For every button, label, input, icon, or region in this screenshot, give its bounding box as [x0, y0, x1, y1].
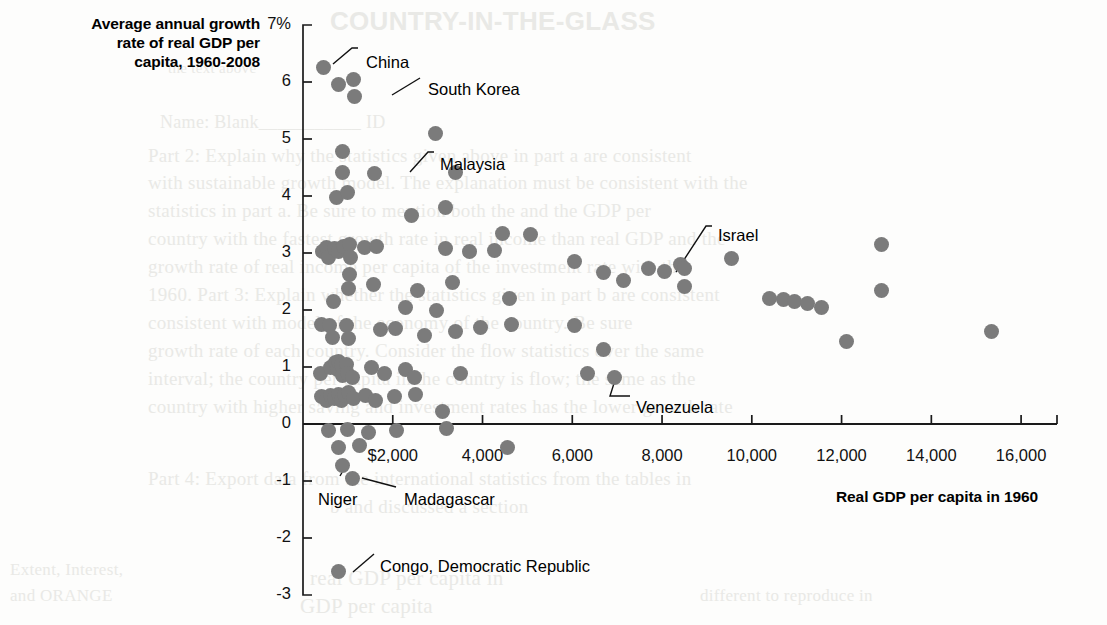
annotation-leader-line	[392, 78, 420, 95]
annotation-leader-line	[362, 478, 396, 487]
data-point	[325, 330, 340, 345]
data-point	[495, 226, 510, 241]
y-tick-label: -2	[225, 527, 291, 546]
data-point	[657, 264, 672, 279]
chart-page: COUNTRY-IN-THE-GLASSthe text aboveName: …	[0, 0, 1107, 625]
data-point	[445, 275, 460, 290]
data-point	[438, 200, 453, 215]
data-point	[677, 261, 692, 276]
y-tick-label: 5	[225, 128, 291, 147]
data-point	[596, 342, 611, 357]
y-tick-label: -1	[225, 470, 291, 489]
data-point	[607, 370, 622, 385]
data-point	[326, 294, 341, 309]
data-point-labeled	[596, 265, 611, 280]
y-tick-label: 7%	[225, 14, 291, 33]
data-point	[439, 421, 454, 436]
data-point	[504, 317, 519, 332]
data-point	[523, 227, 538, 242]
data-point	[407, 370, 422, 385]
annotation-label: Madagascar	[404, 490, 495, 509]
data-point	[345, 370, 360, 385]
data-point	[839, 334, 854, 349]
y-tick-label: -3	[225, 584, 291, 603]
data-point	[435, 404, 450, 419]
data-point	[321, 423, 336, 438]
data-point-labeled	[331, 564, 346, 579]
data-point	[335, 165, 350, 180]
data-point	[874, 283, 889, 298]
data-point	[373, 322, 388, 337]
y-tick-label: 4	[225, 185, 291, 204]
y-axis-spine	[303, 25, 312, 595]
data-point	[341, 281, 356, 296]
y-tick-label: 1	[225, 356, 291, 375]
data-point	[724, 251, 739, 266]
data-point-labeled	[316, 60, 331, 75]
data-point	[410, 283, 425, 298]
data-point	[502, 291, 517, 306]
data-point	[438, 241, 453, 256]
scatter-plot: 7%6543210-1-2-3$2,0004,0006,0008,00010,0…	[0, 0, 1107, 625]
data-point	[342, 267, 357, 282]
data-point	[487, 243, 502, 258]
data-point	[417, 328, 432, 343]
data-point	[473, 320, 488, 335]
data-point-labeled	[367, 166, 382, 181]
data-point	[428, 126, 443, 141]
data-point	[677, 279, 692, 294]
annotation-label: Venezuela	[636, 398, 713, 417]
data-point	[369, 239, 384, 254]
data-point	[567, 318, 582, 333]
data-point	[368, 393, 383, 408]
data-point	[429, 303, 444, 318]
data-point-labeled	[580, 366, 595, 381]
annotation-label: South Korea	[428, 80, 520, 99]
data-point	[641, 261, 656, 276]
data-point-labeled	[347, 89, 362, 104]
data-point	[448, 324, 463, 339]
annotation-label: Malaysia	[440, 155, 505, 174]
data-point	[366, 277, 381, 292]
y-tick-label: 3	[225, 242, 291, 261]
annotation-leader-line	[353, 554, 374, 572]
data-point	[387, 389, 402, 404]
data-point	[874, 237, 889, 252]
data-point-labeled	[335, 458, 350, 473]
annotation-leader-line	[333, 48, 358, 64]
data-point	[814, 300, 829, 315]
data-point	[984, 324, 999, 339]
annotation-label: Niger	[318, 490, 357, 509]
annotation-label: Israel	[718, 226, 758, 245]
data-point	[453, 366, 468, 381]
annotation-leader-line	[410, 152, 434, 172]
data-point	[404, 208, 419, 223]
axes-and-leader-lines	[0, 0, 1107, 625]
y-tick-label: 0	[225, 413, 291, 432]
data-point	[567, 254, 582, 269]
data-point	[389, 423, 404, 438]
data-point	[343, 250, 358, 265]
data-point	[408, 387, 423, 402]
data-point	[340, 185, 355, 200]
data-point	[398, 300, 413, 315]
data-point	[462, 244, 477, 259]
data-point	[377, 366, 392, 381]
data-point	[341, 331, 356, 346]
y-tick-label: 6	[225, 71, 291, 90]
data-point	[335, 144, 350, 159]
data-point	[388, 321, 403, 336]
annotation-label: Congo, Democratic Republic	[380, 557, 590, 576]
annotation-label: China	[366, 53, 409, 72]
data-point	[616, 273, 631, 288]
data-point	[331, 77, 346, 92]
data-point-labeled	[345, 471, 360, 486]
x-tick-label: 16,000	[961, 446, 1081, 465]
y-tick-label: 2	[225, 299, 291, 318]
data-point	[346, 72, 361, 87]
data-point	[340, 422, 355, 437]
